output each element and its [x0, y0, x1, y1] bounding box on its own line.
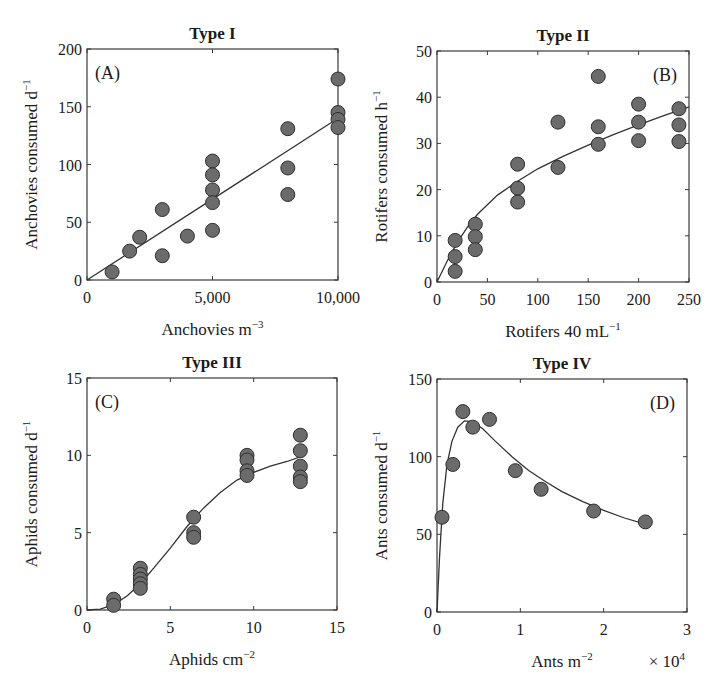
x-tick-label: 150: [576, 291, 600, 308]
y-tick-label: 100: [58, 157, 82, 174]
panel-title: Type IV: [533, 354, 592, 373]
x-axis-multiplier: × 104: [649, 650, 686, 671]
data-point-marker: [632, 134, 646, 148]
data-point-marker: [508, 464, 522, 478]
y-axis-label: Rotifers consumed h−1: [370, 90, 391, 242]
data-point-marker: [483, 412, 497, 426]
y-axis-label-text: Anchovies consumed d: [22, 91, 41, 250]
y-tick-label: 50: [416, 526, 432, 543]
data-point-marker: [534, 482, 548, 496]
fit-curve: [437, 421, 645, 612]
panel-label: (C): [95, 392, 119, 413]
x-tick-label: 10,000: [316, 289, 360, 306]
y-tick-label: 10: [416, 228, 432, 245]
y-axis-label: Ants consumed d−1: [370, 431, 391, 561]
x-tick-label: 15: [329, 619, 345, 636]
x-axis-label: Aphids cm−2: [169, 648, 255, 669]
y-axis-label-superscript: −1: [20, 79, 32, 91]
panel-c: Type III051015051015Aphids cm−2Aphids co…: [20, 353, 345, 669]
y-tick-label: 0: [74, 602, 82, 619]
data-point-marker: [331, 72, 345, 86]
data-point-marker: [632, 115, 646, 129]
x-axis-label-superscript: −1: [609, 320, 621, 332]
data-point-marker: [672, 135, 686, 149]
data-point-marker: [511, 181, 525, 195]
panel-a: Type I05,00010,000050100150200Anchovies …: [20, 24, 360, 339]
x-axis-multiplier-superscript: 4: [680, 650, 686, 662]
y-tick-label: 200: [58, 41, 82, 58]
panel-title: Type II: [536, 26, 589, 45]
y-tick-label: 5: [74, 525, 82, 542]
y-tick-label: 20: [416, 182, 432, 199]
data-point-marker: [448, 264, 462, 278]
x-axis-multiplier-text: × 10: [649, 652, 680, 671]
data-point-marker: [281, 188, 295, 202]
data-point-marker: [155, 249, 169, 263]
x-tick-label: 1: [516, 621, 524, 638]
y-axis-label: Aphids consumed d−1: [20, 421, 41, 568]
x-tick-label: 50: [479, 291, 495, 308]
data-point-marker: [468, 230, 482, 244]
y-tick-label: 40: [416, 89, 432, 106]
y-tick-label: 30: [416, 135, 432, 152]
data-point-marker: [468, 217, 482, 231]
data-point-marker: [187, 530, 201, 544]
data-point-marker: [281, 161, 295, 175]
y-tick-label: 50: [416, 43, 432, 60]
y-tick-label: 10: [66, 447, 82, 464]
y-tick-label: 50: [66, 214, 82, 231]
x-axis-label-text: Ants m: [531, 652, 581, 671]
data-point-marker: [435, 510, 449, 524]
x-axis-label-text: Rotifers 40 mL: [505, 322, 609, 341]
y-axis-label-superscript: −1: [20, 421, 32, 433]
data-point-marker: [293, 428, 307, 442]
x-tick-label: 0: [83, 619, 91, 636]
y-tick-label: 15: [66, 370, 82, 387]
data-point-marker: [587, 504, 601, 518]
data-point-marker: [123, 244, 137, 258]
figure-canvas: Type I05,00010,000050100150200Anchovies …: [0, 0, 719, 697]
y-axis-label-superscript: −1: [370, 90, 382, 102]
y-tick-label: 150: [408, 371, 432, 388]
data-point-marker: [456, 405, 470, 419]
panel-label: (A): [95, 63, 120, 84]
data-point-marker: [672, 118, 686, 132]
x-tick-label: 3: [683, 621, 691, 638]
data-point-marker: [187, 510, 201, 524]
data-point-marker: [107, 598, 121, 612]
x-tick-label: 0: [83, 289, 91, 306]
panel-label: (D): [650, 393, 675, 414]
x-tick-label: 250: [677, 291, 701, 308]
data-point-marker: [293, 444, 307, 458]
data-point-marker: [632, 97, 646, 111]
data-point-marker: [591, 137, 605, 151]
data-point-marker: [206, 196, 220, 210]
panel-d: Type IV0123050100150Ants m−2Ants consume…: [370, 354, 691, 671]
x-tick-label: 100: [526, 291, 550, 308]
x-axis-label: Ants m−2: [531, 650, 592, 671]
x-tick-label: 0: [433, 621, 441, 638]
y-tick-label: 0: [74, 272, 82, 289]
data-point-marker: [591, 120, 605, 134]
y-axis-label-text: Rotifers consumed h: [372, 102, 391, 243]
y-axis-label-text: Ants consumed d: [372, 442, 391, 561]
data-point-marker: [551, 115, 565, 129]
data-point-marker: [638, 515, 652, 529]
x-axis-label: Anchovies m−3: [162, 318, 264, 339]
data-point-marker: [155, 203, 169, 217]
panel-title: Type I: [189, 24, 236, 43]
data-point-marker: [448, 233, 462, 247]
x-tick-label: 200: [627, 291, 651, 308]
data-point-marker: [105, 265, 119, 279]
data-point-marker: [466, 420, 480, 434]
plot-frame: [87, 378, 337, 610]
y-tick-label: 100: [408, 449, 432, 466]
y-axis-label-text: Aphids consumed d: [22, 432, 41, 568]
data-point-marker: [446, 457, 460, 471]
x-axis-label: Rotifers 40 mL−1: [505, 320, 621, 341]
data-point-marker: [448, 250, 462, 264]
panel-title: Type III: [182, 353, 242, 372]
panel-b: Type II05010015020025001020304050Rotifer…: [370, 26, 701, 341]
data-point-marker: [133, 230, 147, 244]
plot-frame: [437, 379, 687, 612]
